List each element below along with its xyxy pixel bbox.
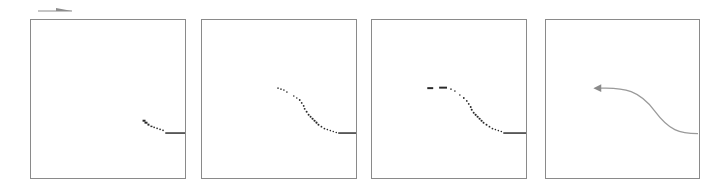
panel-2-dense-trajectory — [201, 19, 357, 179]
arrow-right-icon — [38, 6, 74, 14]
trajectory-points — [372, 20, 526, 178]
panel-3-dashed-trajectory — [371, 19, 527, 179]
trajectory-curve — [546, 20, 699, 178]
panel-4-arrow-curve — [545, 19, 700, 179]
panel-1-sparse-trajectory — [30, 19, 186, 179]
trajectory-points — [202, 20, 356, 178]
arrow-left-icon — [593, 84, 601, 92]
trajectory-points — [31, 20, 185, 178]
